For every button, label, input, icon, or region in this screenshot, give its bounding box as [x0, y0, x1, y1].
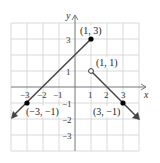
y-tick-label: −3 — [62, 131, 72, 141]
label-point-m3-m1: (−3, −1) — [26, 106, 59, 118]
x-axis-label: x — [143, 89, 149, 100]
closed-point-3-m1 — [120, 100, 125, 105]
graph: x y −3 −2 −1 1 2 3 3 1 −1 −2 −3 (1, 3) (… — [0, 0, 160, 163]
y-tick-label: 3 — [66, 35, 71, 45]
x-tick-label: 3 — [121, 90, 126, 100]
y-tick-label: −2 — [62, 115, 72, 125]
y-axis-label: y — [65, 10, 71, 21]
x-tick-label: −3 — [20, 90, 30, 100]
y-tick-label: 1 — [66, 67, 71, 77]
y-tick-label: −1 — [62, 99, 72, 109]
x-tick-label: 2 — [104, 90, 109, 100]
axes — [11, 15, 146, 151]
closed-point-m3-m1 — [24, 100, 29, 105]
label-point-3-m1: (3, −1) — [93, 106, 120, 118]
open-point-1-1 — [89, 69, 94, 74]
label-point-1-1: (1, 1) — [96, 57, 118, 69]
closed-point-1-3 — [88, 36, 93, 41]
label-point-1-3: (1, 3) — [80, 25, 102, 37]
x-tick-label: 1 — [88, 90, 93, 100]
